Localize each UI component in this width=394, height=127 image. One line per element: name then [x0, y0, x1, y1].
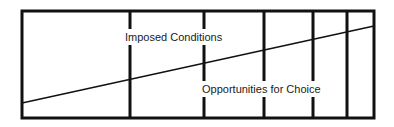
- opportunities-for-choice-label: Opportunities for Choice: [202, 83, 321, 95]
- imposed-conditions-label-group: Imposed Conditions: [123, 29, 225, 45]
- opportunities-for-choice-label-group: Opportunities for Choice: [200, 81, 323, 97]
- diagram-canvas: Imposed Conditions Opportunities for Cho…: [0, 0, 394, 127]
- imposed-conditions-label: Imposed Conditions: [125, 31, 223, 43]
- vertical-dividers: [130, 11, 347, 118]
